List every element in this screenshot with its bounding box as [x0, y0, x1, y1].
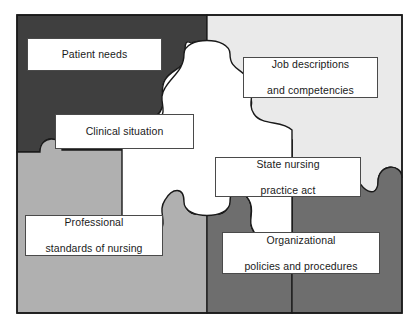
label-patient-needs[interactable]: Patient needs: [27, 38, 162, 71]
label-job-descriptions-line2: and competencies: [244, 84, 377, 97]
label-state-nursing-line1: State nursing: [216, 158, 360, 171]
label-state-nursing-line2: practice act: [216, 184, 360, 197]
label-organizational-line1: Organizational: [223, 234, 379, 247]
label-professional-standards[interactable]: Professional standards of nursing: [25, 215, 163, 256]
label-clinical-situation-text: Clinical situation: [56, 125, 193, 138]
puzzle-diagram: Patient needs Job descriptions and compe…: [0, 0, 414, 329]
label-patient-needs-text: Patient needs: [28, 48, 161, 61]
label-professional-line2: standards of nursing: [26, 242, 162, 255]
label-professional-text: Professional standards of nursing: [26, 216, 162, 255]
label-clinical-situation[interactable]: Clinical situation: [55, 114, 194, 149]
label-state-nursing-text: State nursing practice act: [216, 158, 360, 197]
label-job-descriptions[interactable]: Job descriptions and competencies: [243, 57, 378, 98]
label-state-nursing-practice-act[interactable]: State nursing practice act: [215, 157, 361, 197]
label-organizational-text: Organizational policies and procedures: [223, 234, 379, 273]
label-professional-line1: Professional: [26, 216, 162, 229]
label-job-descriptions-text: Job descriptions and competencies: [244, 58, 377, 97]
label-organizational-policies[interactable]: Organizational policies and procedures: [222, 232, 380, 274]
label-organizational-line2: policies and procedures: [223, 260, 379, 273]
label-job-descriptions-line1: Job descriptions: [244, 58, 377, 71]
